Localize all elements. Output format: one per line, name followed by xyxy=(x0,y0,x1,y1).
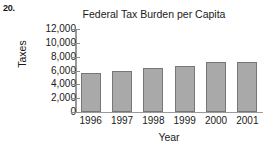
y-tick-label: 0 xyxy=(28,106,76,118)
bar xyxy=(81,73,101,112)
bar-series xyxy=(75,29,263,112)
x-tick-label: 1996 xyxy=(74,115,108,126)
x-tick-label: 1998 xyxy=(136,115,170,126)
x-tick-label: 2000 xyxy=(199,115,233,126)
bar xyxy=(237,62,257,112)
bar xyxy=(143,68,163,112)
plot-area: 02,0004,0006,0008,00010,00012,000 199619… xyxy=(0,0,268,152)
x-axis-line xyxy=(75,112,263,113)
x-axis-label: Year xyxy=(75,131,263,143)
y-tick-label: 6,000 xyxy=(28,65,76,77)
y-tick-label: 2,000 xyxy=(28,92,76,104)
x-tick-label: 1997 xyxy=(105,115,139,126)
x-tick-label: 2001 xyxy=(230,115,264,126)
y-tick-mark xyxy=(71,112,80,113)
y-tick-label: 10,000 xyxy=(28,37,76,49)
figure: 20. Federal Tax Burden per Capita Taxes … xyxy=(0,0,268,152)
x-tick-label: 1999 xyxy=(168,115,202,126)
bar xyxy=(112,71,132,112)
bar xyxy=(175,66,195,112)
y-tick-label: 12,000 xyxy=(28,23,76,35)
y-tick-label: 4,000 xyxy=(28,78,76,90)
bar xyxy=(206,62,226,112)
y-tick-label: 8,000 xyxy=(28,51,76,63)
